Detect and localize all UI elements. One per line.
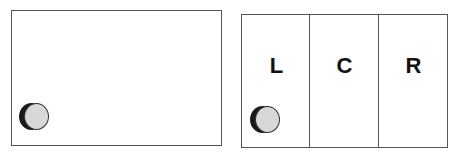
zone-label-right: R <box>379 53 448 79</box>
right-panel: L C R <box>241 14 448 148</box>
puck-icon <box>250 106 280 134</box>
zone-divider <box>309 15 310 147</box>
zone-label-center: C <box>310 53 379 79</box>
puck-face <box>255 106 280 133</box>
puck-icon <box>19 103 49 131</box>
puck-face <box>24 103 49 130</box>
left-panel <box>11 10 222 146</box>
zone-label-left: L <box>242 53 311 79</box>
zone-divider <box>378 15 379 147</box>
